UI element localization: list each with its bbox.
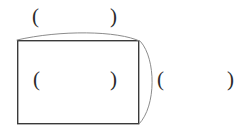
paren-top-close: ) bbox=[110, 6, 117, 27]
paren-middle-open: ( bbox=[33, 69, 40, 90]
paren-right-close: ) bbox=[227, 69, 234, 90]
paren-top-open: ( bbox=[32, 6, 39, 27]
paren-middle-close: ) bbox=[110, 69, 117, 90]
paren-right-open: ( bbox=[157, 69, 164, 90]
figure-canvas: ( ) ( ) ( ) bbox=[0, 0, 249, 136]
